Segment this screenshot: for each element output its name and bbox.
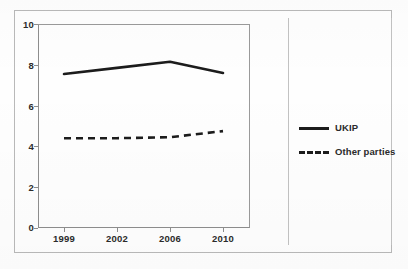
y-tick-label: 4 [10,141,34,152]
legend-swatch-solid-line-icon [299,124,329,132]
series-line-other-parties [64,131,223,138]
x-tick-label: 1999 [44,233,84,244]
series-line-ukip [64,62,223,74]
chart-figure: 10 8 6 4 2 0 1999 2002 2006 2010 [0,0,408,269]
x-tick-label: 2002 [97,233,137,244]
legend-item-ukip: UKIP [299,122,358,133]
plot-area [38,24,250,228]
legend-item-other-parties: Other parties [299,146,395,157]
x-tick-mark [170,228,171,232]
x-tick-mark [223,228,224,232]
legend-label: UKIP [335,122,358,133]
x-tick-label: 2010 [203,233,243,244]
y-tick-label: 10 [10,19,34,30]
y-tick-label: 8 [10,60,34,71]
y-tick-label: 0 [10,222,34,233]
x-tick-mark [64,228,65,232]
legend-swatch-dashed-line-icon [299,148,329,156]
y-tick-label: 6 [10,101,34,112]
legend-label: Other parties [335,146,395,157]
y-tick-label: 2 [10,182,34,193]
chart-legend: UKIP Other parties [288,18,392,245]
y-tick-mark [34,228,38,229]
x-tick-label: 2006 [150,233,190,244]
x-tick-mark [117,228,118,232]
series-canvas [38,24,250,228]
